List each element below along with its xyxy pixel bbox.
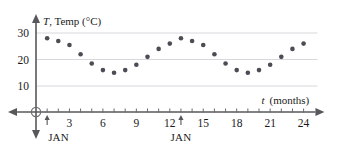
jan-marker-year1-arrow-icon [45, 115, 50, 120]
data-point [101, 68, 106, 73]
data-point [156, 47, 161, 52]
x-axis-tick-labels-group: 3691215182124 [67, 117, 310, 129]
temperature-scatter-chart: 102030 3691215182124 JANJAN T, Temp (°C)… [0, 0, 358, 147]
y-axis-arrow-down-icon [32, 130, 40, 139]
data-points-group [45, 36, 306, 75]
y-tick-label-10: 10 [18, 80, 30, 92]
data-point [201, 43, 206, 48]
data-point [45, 36, 50, 41]
data-point [78, 52, 83, 57]
data-point [112, 70, 117, 75]
x-tick-label-3: 3 [67, 117, 73, 129]
data-point [67, 43, 72, 48]
data-point [89, 61, 94, 66]
data-point [223, 61, 228, 66]
x-tick-label-24: 24 [298, 117, 310, 129]
data-point [179, 36, 184, 41]
data-point [190, 39, 195, 44]
x-axis-arrow-right-icon [315, 108, 324, 116]
x-axis-title-units: (months) [270, 94, 310, 107]
x-tick-label-18: 18 [231, 117, 243, 129]
jan-marker-year2-arrow-icon [178, 115, 183, 120]
jan-marker-year1: JAN [45, 115, 69, 143]
data-point [234, 68, 239, 73]
data-point [268, 63, 273, 68]
y-axis-arrow-up-icon [32, 14, 40, 23]
y-tick-label-30: 30 [18, 27, 30, 39]
jan-marker-year1-label: JAN [48, 131, 69, 143]
x-tick-label-12: 12 [164, 117, 176, 129]
jan-marker-year2-label: JAN [171, 131, 192, 143]
x-axis-title: t(months) [261, 94, 309, 107]
y-axis-title-units: , Temp (°C) [49, 15, 101, 28]
x-tick-label-6: 6 [100, 117, 106, 129]
x-tick-label-9: 9 [133, 117, 139, 129]
y-axis-title: T, Temp (°C) [43, 15, 101, 28]
data-point [246, 70, 251, 75]
data-point [301, 41, 306, 46]
data-point [134, 63, 139, 68]
data-point [290, 47, 295, 52]
x-axis-arrow-left-icon [8, 108, 17, 116]
x-tick-label-15: 15 [198, 117, 210, 129]
y-axis-tick-labels-group: 102030 [18, 27, 30, 92]
x-axis-title-variable: t [261, 94, 265, 106]
data-point [257, 68, 262, 73]
y-tick-label-20: 20 [18, 54, 30, 66]
data-point [123, 68, 128, 73]
data-point [279, 55, 284, 60]
chart-canvas: 102030 3691215182124 JANJAN T, Temp (°C)… [0, 0, 358, 147]
data-point [212, 52, 217, 57]
data-point [56, 39, 61, 44]
data-point [168, 41, 173, 46]
data-point [145, 55, 150, 60]
x-tick-label-21: 21 [264, 117, 276, 129]
gridlines-group [36, 33, 317, 86]
